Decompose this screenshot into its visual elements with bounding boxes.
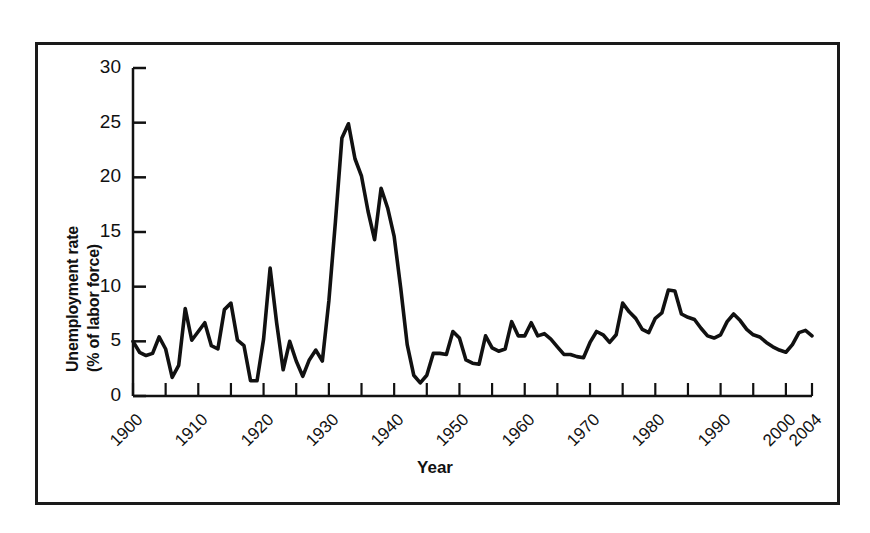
line-series-unemployment-rate — [133, 124, 812, 383]
axes-group — [133, 68, 812, 396]
x-axis-title: Year — [0, 458, 870, 478]
data-series-group — [133, 124, 812, 383]
plot-svg — [0, 0, 870, 533]
x-axis-tick-marks — [133, 383, 812, 396]
chart-container: Unemployment rate (% of labor force) 302… — [0, 0, 870, 533]
